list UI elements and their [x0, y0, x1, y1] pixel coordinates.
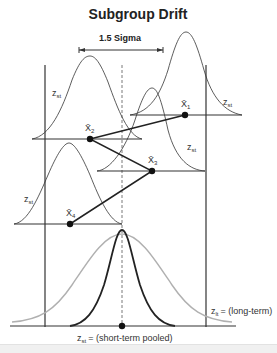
- zst-label-curve-3: zst: [187, 142, 197, 153]
- zst-label-curve-1: zst: [223, 97, 233, 108]
- bottom-divider: [0, 344, 277, 353]
- shift-label: 1.5 Sigma: [99, 33, 142, 43]
- shift-arrow: [79, 47, 163, 53]
- long-term-label: zlt= (long-term): [211, 306, 272, 317]
- short-term-pooled-curve: [70, 230, 175, 326]
- subgroup-mean-dot-3: [149, 168, 155, 174]
- pooled-mean-dot: [119, 323, 125, 329]
- subgroup-mean-dot-1: [182, 112, 188, 118]
- subgroup-mean-dot-2: [87, 136, 93, 142]
- zst-label-curve-2: zst: [52, 88, 62, 99]
- diagram-title: Subgroup Drift: [89, 6, 188, 22]
- short-term-pooled-label: zst= (short-term pooled): [77, 333, 172, 344]
- zst-label-curve-4: zst: [24, 194, 34, 205]
- subgroup-mean-label-1: X̄1: [181, 99, 191, 110]
- subgroup-mean-dot-4: [67, 221, 73, 227]
- subgroup-mean-label-2: X̄2: [85, 123, 95, 134]
- subgroup-mean-label-3: X̄3: [148, 155, 158, 166]
- subgroup-mean-label-4: X̄4: [66, 208, 76, 219]
